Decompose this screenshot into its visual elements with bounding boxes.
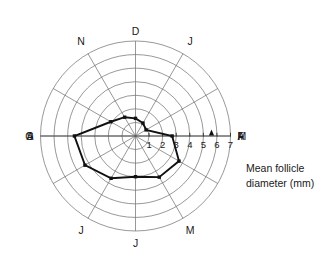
data-point-A-8: [83, 163, 86, 166]
data-point-J-6: [134, 175, 137, 178]
annotation-line-2: diameter (mm): [246, 177, 314, 189]
data-point-M-5: [158, 175, 161, 178]
month-label-N-11: N: [77, 35, 85, 47]
polar-chart-figure: DJFMAMJJASON 1234567 Mean follicle diame…: [0, 0, 323, 272]
month-label-M-5: M: [186, 224, 195, 236]
radial-tick-labels: 1234567: [146, 139, 233, 150]
radial-tick-label-1: 1: [146, 139, 151, 150]
radial-tick-label-4: 4: [187, 139, 192, 150]
data-point-A-4: [177, 159, 180, 162]
data-point-F-2: [144, 128, 147, 131]
reference-arrow-marker: [209, 130, 214, 136]
polar-chart-canvas: DJFMAMJJASON 1234567 Mean follicle diame…: [0, 0, 323, 272]
month-label-A-4: A: [238, 130, 245, 142]
month-label-J-6: J: [133, 237, 138, 249]
month-label-J-7: J: [78, 224, 83, 236]
data-point-M-3: [170, 134, 173, 137]
radial-tick-label-7: 7: [228, 139, 233, 150]
annotation-line-1: Mean follicle: [246, 162, 305, 174]
month-label-O-10: O: [25, 130, 33, 142]
radial-tick-label-5: 5: [201, 139, 206, 150]
month-label-D-0: D: [132, 25, 140, 37]
grid-spoke-N-11: [88, 54, 136, 136]
arrow-marker-triangle: [209, 130, 214, 136]
grid-spoke-A-8: [53, 136, 135, 184]
month-label-J-1: J: [187, 35, 192, 47]
data-point-J-7: [109, 177, 112, 180]
data-point-S-9: [73, 134, 76, 137]
radial-tick-label-6: 6: [214, 139, 219, 150]
radial-tick-label-3: 3: [174, 139, 179, 150]
radial-tick-label-2: 2: [160, 139, 165, 150]
data-point-J-1: [141, 121, 144, 124]
data-point-N-11: [123, 115, 126, 118]
data-point-D-0: [134, 117, 137, 120]
data-point-O-10: [109, 120, 112, 123]
grid-spoke-F-2: [136, 89, 218, 137]
